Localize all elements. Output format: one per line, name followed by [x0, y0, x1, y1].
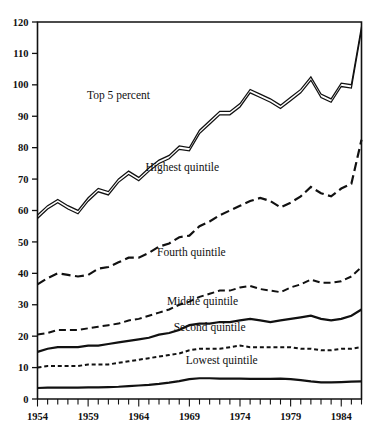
data-series — [38, 27, 362, 388]
series-stroke — [38, 378, 362, 388]
y-axis-ticks — [32, 22, 38, 399]
income-limits-chart: 0102030405060708090100110120 19541959196… — [0, 0, 374, 440]
series-stroke — [38, 30, 362, 219]
series-label: Lowest quintile — [186, 354, 258, 367]
y-tick-label: 110 — [13, 48, 28, 59]
y-tick-label: 80 — [18, 142, 29, 153]
y-tick-label: 30 — [18, 299, 29, 310]
y-tick-label: 60 — [18, 205, 29, 216]
series-label: Fourth quintile — [157, 246, 226, 259]
y-tick-label: 0 — [23, 394, 28, 405]
y-tick-label: 20 — [18, 331, 29, 342]
x-tick-label: 1969 — [179, 411, 200, 422]
series-label: Second quintile — [174, 321, 246, 334]
y-tick-label: 120 — [13, 17, 29, 28]
series-annotations: Top 5 percentHighest quintileFourth quin… — [87, 89, 258, 367]
x-axis-ticks — [38, 399, 362, 407]
x-tick-label: 1964 — [128, 411, 150, 422]
y-tick-label: 10 — [18, 362, 29, 373]
series-stroke — [38, 27, 362, 216]
series-top-5-percent — [38, 27, 362, 219]
chart-canvas: 0102030405060708090100110120 19541959196… — [0, 0, 374, 440]
series-label: Middle quintile — [167, 295, 238, 308]
x-axis-tick-labels: 1954195919641969197419791984 — [27, 411, 353, 422]
series-label: Highest quintile — [145, 161, 219, 174]
plot-frame — [38, 22, 362, 399]
x-tick-label: 1974 — [230, 411, 252, 422]
x-tick-label: 1984 — [331, 411, 353, 422]
axes — [38, 22, 362, 399]
x-tick-label: 1959 — [78, 411, 99, 422]
x-tick-label: 1979 — [280, 411, 301, 422]
y-axis-tick-labels: 0102030405060708090100110120 — [13, 17, 29, 405]
y-tick-label: 70 — [18, 174, 29, 185]
x-tick-label: 1954 — [27, 411, 49, 422]
y-tick-label: 90 — [18, 111, 29, 122]
y-tick-label: 50 — [18, 237, 29, 248]
series-label: Top 5 percent — [87, 89, 151, 102]
series-lowest-quintile — [38, 378, 362, 388]
y-tick-label: 100 — [13, 79, 29, 90]
y-tick-label: 40 — [18, 268, 29, 279]
